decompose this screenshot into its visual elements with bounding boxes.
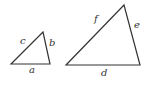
similar-triangles-diagram: c b a f e d [0,0,148,85]
label-b: b [49,37,55,48]
label-d: d [101,67,107,78]
label-e: e [134,19,140,30]
label-a: a [29,64,35,75]
small-triangle [11,32,50,64]
label-c: c [20,35,26,46]
label-f: f [93,13,100,24]
large-triangle [66,5,140,65]
